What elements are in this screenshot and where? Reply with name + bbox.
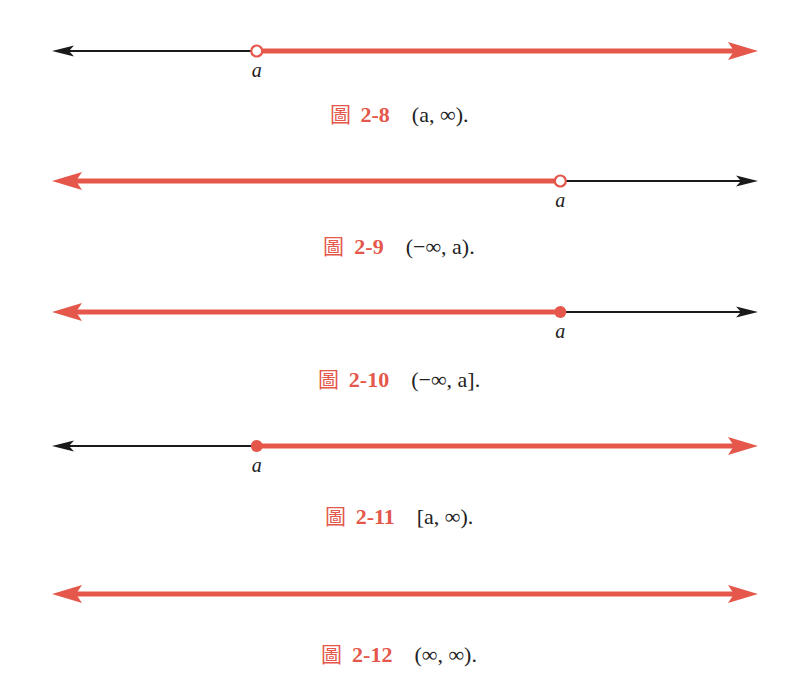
interval-notation: (a, ∞). — [412, 102, 469, 127]
interval-notation: (−∞, a]. — [411, 367, 480, 392]
figure-caption-2-11: 圖2-11[a, ∞). — [0, 500, 798, 530]
interval-notation: (−∞, a). — [406, 234, 475, 259]
interval-notation: [a, ∞). — [417, 504, 474, 529]
figure-char: 圖 — [321, 643, 342, 667]
figure-char: 圖 — [318, 368, 339, 392]
point-label: a — [252, 59, 262, 82]
figure-char: 圖 — [325, 505, 346, 529]
figure-caption-2-10: 圖2-10(−∞, a]. — [0, 363, 798, 393]
figure-number: 2-9 — [354, 234, 383, 259]
closed-endpoint — [554, 306, 566, 318]
open-endpoint — [555, 176, 566, 187]
open-endpoint — [251, 46, 262, 57]
closed-endpoint — [251, 440, 263, 452]
figure-number: 2-10 — [349, 367, 389, 392]
figure-caption-2-9: 圖2-9(−∞, a). — [0, 230, 798, 260]
figure-number: 2-8 — [361, 102, 390, 127]
figure-char: 圖 — [330, 103, 351, 127]
figure-caption-2-12: 圖2-12(∞, ∞). — [0, 638, 798, 668]
figure-number: 2-11 — [356, 504, 395, 529]
point-label: a — [555, 189, 565, 212]
figure-number: 2-12 — [352, 642, 392, 667]
figure-char: 圖 — [323, 235, 344, 259]
figure-caption-2-8: 圖2-8(a, ∞). — [0, 98, 798, 128]
point-label: a — [555, 320, 565, 343]
interval-notation: (∞, ∞). — [414, 642, 477, 667]
point-label: a — [252, 454, 262, 477]
